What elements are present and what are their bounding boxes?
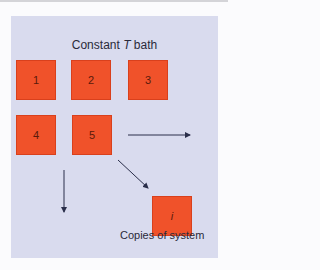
copies-caption: Copies of system bbox=[120, 229, 204, 241]
arrow-diagonal-icon bbox=[118, 160, 148, 188]
